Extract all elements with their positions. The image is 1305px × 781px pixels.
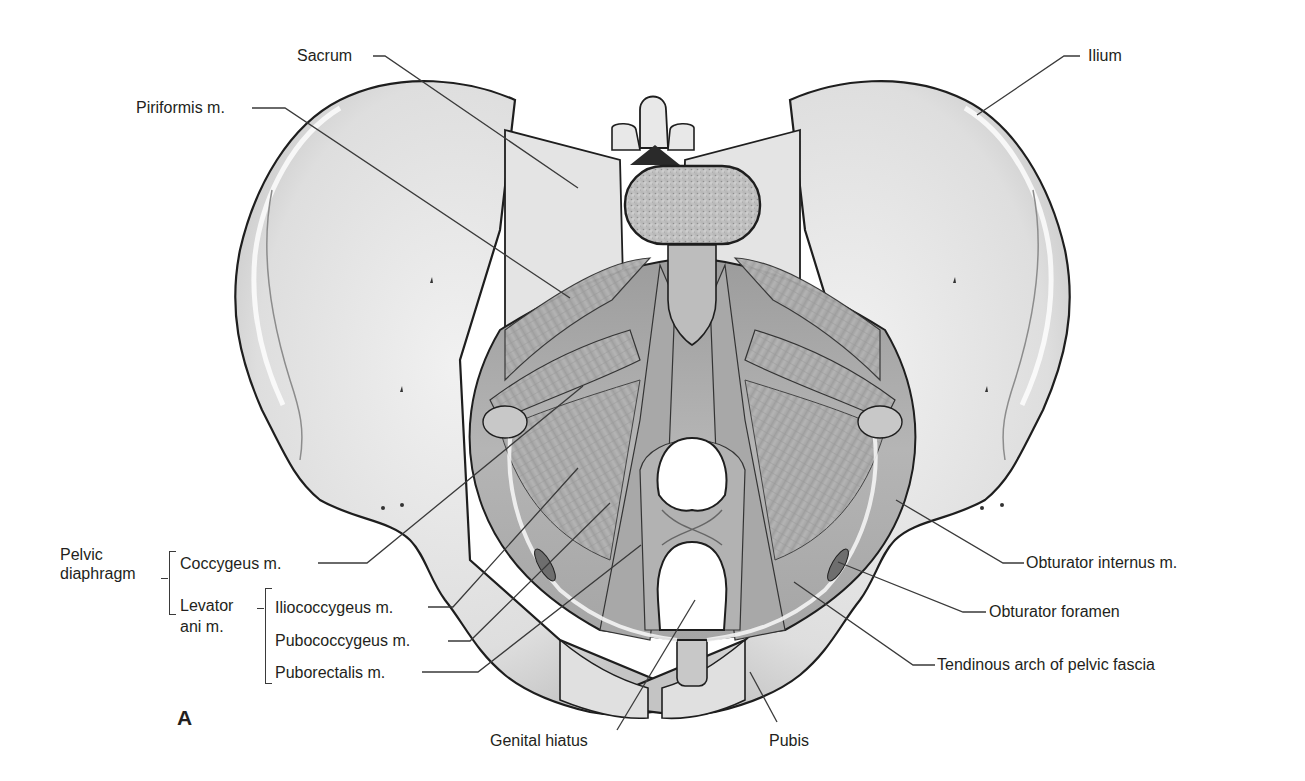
vertebral-body-s1 (625, 166, 760, 244)
panel-letter: A (177, 706, 192, 730)
spinous-process (640, 97, 668, 149)
label-iliococcygeus: Iliococcygeus m. (275, 599, 393, 617)
leader-ilium (977, 56, 1080, 115)
rectal-hiatus (658, 438, 727, 511)
label-levator-ani-1: Levator (180, 597, 233, 615)
pelvic-diaphragm-bracket (169, 551, 176, 615)
label-pelvic-diaphragm-1: Pelvic (60, 546, 103, 564)
label-pelvic-diaphragm-2: diaphragm (60, 565, 136, 583)
label-levator-ani-2: ani m. (180, 618, 224, 636)
label-puborectalis: Puborectalis m. (275, 664, 385, 682)
label-genital-hiatus: Genital hiatus (490, 732, 588, 750)
label-coccygeus: Coccygeus m. (180, 555, 281, 573)
levator-ani-tick (257, 608, 264, 609)
label-pubis: Pubis (769, 732, 809, 750)
label-sacrum: Sacrum (297, 47, 352, 65)
pelvic-diaphragm-tick (161, 578, 168, 579)
label-tendinous-arch: Tendinous arch of pelvic fascia (937, 656, 1155, 674)
label-obturator-internus: Obturator internus m. (1026, 554, 1177, 572)
label-piriformis: Piriformis m. (136, 99, 225, 117)
label-ilium: Ilium (1088, 47, 1122, 65)
genital-hiatus (658, 542, 727, 630)
label-obturator-foramen: Obturator foramen (989, 603, 1120, 621)
label-pubococcygeus: Pubococcygeus m. (275, 632, 410, 650)
levator-ani-bracket (265, 588, 272, 684)
